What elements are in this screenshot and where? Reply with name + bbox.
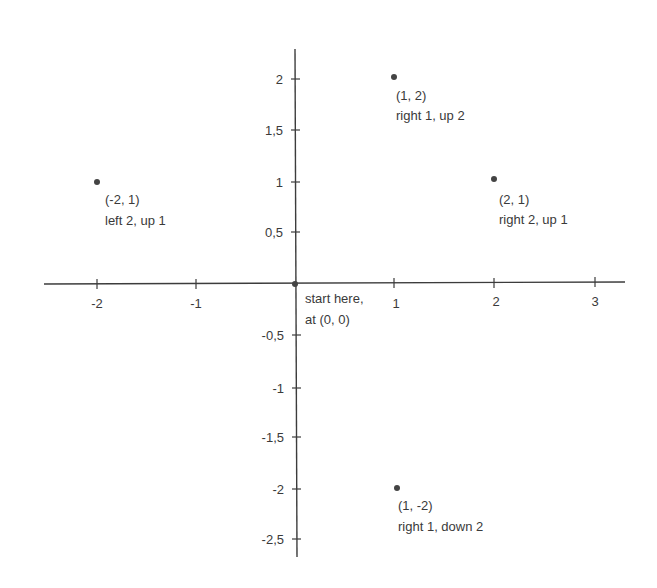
point-origin <box>292 281 298 287</box>
x-tick-label: -2 <box>91 296 103 311</box>
y-tick-label: -2 <box>272 482 284 497</box>
annotation-1-neg2-coords: (1, -2) <box>398 498 433 513</box>
annotation-1-2-desc: right 1, up 2 <box>396 108 465 123</box>
y-tick-label: 1 <box>276 175 283 190</box>
annotation-2-1-desc: right 2, up 1 <box>499 212 568 227</box>
point-neg2-1 <box>94 179 100 185</box>
annotation-neg2-1-desc: left 2, up 1 <box>105 213 166 228</box>
annotation-2-1-coords: (2, 1) <box>499 192 529 207</box>
x-tick-label: 1 <box>392 296 399 311</box>
x-tick-label: -1 <box>190 296 202 311</box>
y-axis <box>295 49 297 557</box>
annotations: start here, at (0, 0) (1, 2) right 1, up… <box>105 88 568 534</box>
point-1-2 <box>391 74 397 80</box>
y-tick-label: -2,5 <box>262 532 284 547</box>
y-tick-label: -0,5 <box>262 328 284 343</box>
annotation-origin-line1: start here, <box>305 291 364 306</box>
y-tick-label: 0,5 <box>265 225 283 240</box>
point-2-1 <box>491 176 497 182</box>
y-tick-label: -1 <box>272 381 284 396</box>
annotation-1-2-coords: (1, 2) <box>396 88 426 103</box>
y-tick-label: 1,5 <box>265 123 283 138</box>
annotation-1-neg2-desc: right 1, down 2 <box>398 519 483 534</box>
coordinate-plane: -2 -1 1 2 3 2 1,5 1 0,5 -0,5 -1 -1,5 -2 … <box>0 0 657 588</box>
x-tick-label: 3 <box>591 294 598 309</box>
point-1-neg2 <box>394 485 400 491</box>
x-axis <box>44 282 625 284</box>
y-tick-label: -1,5 <box>262 430 284 445</box>
x-tick-label: 2 <box>492 294 499 309</box>
annotation-origin-line2: at (0, 0) <box>305 312 350 327</box>
annotation-neg2-1-coords: (-2, 1) <box>105 192 140 207</box>
y-tick-label: 2 <box>276 72 283 87</box>
